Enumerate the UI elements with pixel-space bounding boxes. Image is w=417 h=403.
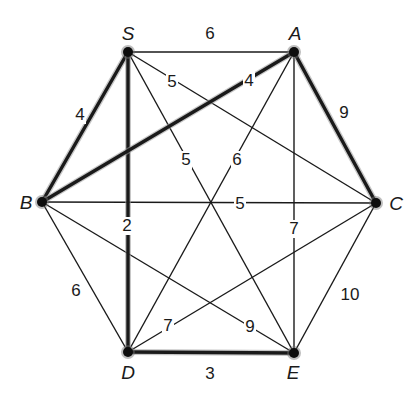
node-label-D: D — [121, 362, 135, 383]
node-E — [289, 348, 299, 358]
edge-weight-A-B: 4 — [244, 71, 253, 90]
edge-B-D — [42, 202, 128, 352]
thin-edges — [42, 52, 376, 353]
node-C — [371, 198, 381, 208]
edge-weight-D-E: 3 — [205, 364, 214, 383]
edge-weight-B-D: 6 — [71, 281, 80, 300]
weighted-graph-diagram: 6455249675697103 SACBDE — [0, 0, 417, 403]
node-D — [123, 347, 133, 357]
node-A — [289, 47, 299, 57]
node-B — [37, 197, 47, 207]
edge-weight-S-C: 5 — [167, 72, 176, 91]
node-label-S: S — [122, 23, 135, 44]
node-S — [123, 47, 133, 57]
edge-D-E — [128, 352, 294, 353]
edge-weight-A-D: 6 — [232, 150, 241, 169]
edge-weight-S-D: 2 — [122, 216, 131, 235]
node-label-C: C — [389, 193, 403, 214]
edge-weight-A-E: 7 — [289, 219, 298, 238]
edge-weight-S-B: 4 — [75, 105, 84, 124]
edge-weight-C-E: 10 — [341, 285, 360, 304]
edge-B-C — [42, 202, 376, 203]
edge-weight-C-D: 7 — [163, 316, 172, 335]
node-label-E: E — [287, 362, 300, 383]
edge-weight-A-C: 9 — [339, 103, 348, 122]
edge-weight-B-C: 5 — [235, 194, 244, 213]
edge-C-E — [294, 203, 376, 353]
edge-weight-B-E: 9 — [245, 317, 254, 336]
node-label-B: B — [20, 192, 33, 213]
node-label-A: A — [288, 23, 302, 44]
edge-weight-S-A: 6 — [205, 24, 214, 43]
edge-A-C — [294, 52, 376, 203]
edge-weight-S-E: 5 — [181, 150, 190, 169]
